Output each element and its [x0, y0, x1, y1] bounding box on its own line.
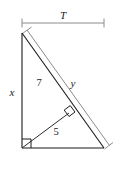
triangle-hypotenuse: [22, 33, 104, 148]
main-triangle: [22, 33, 104, 148]
offset-dimension-tick-end: [105, 143, 114, 150]
inner-altitude-segment: [22, 113, 69, 148]
label-inner-segment: 5: [53, 126, 58, 137]
hypotenuse-offset-dimension: [23, 27, 114, 149]
geometry-canvas: x T 7 y 5: [0, 0, 113, 170]
label-hypotenuse-offset: y: [70, 77, 76, 89]
label-vertical-leg: x: [9, 86, 15, 98]
offset-dimension-tick-start: [23, 27, 32, 34]
label-top-dimension: T: [60, 9, 67, 21]
geometry-figure: x T 7 y 5: [0, 0, 113, 170]
label-hypotenuse-upper: 7: [36, 77, 41, 88]
